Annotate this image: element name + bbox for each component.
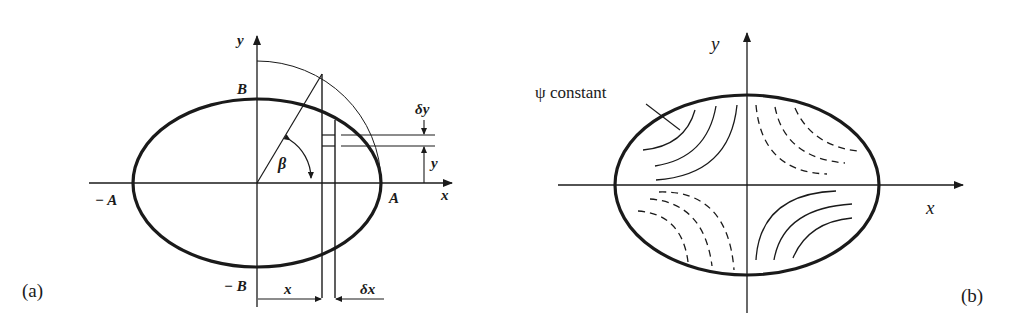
caption-b: (b) <box>961 285 983 307</box>
x-axis-label-b: x <box>925 197 935 218</box>
psi-contours-dashed-upper-right <box>756 105 858 174</box>
y-axis-label-b: y <box>709 33 720 54</box>
psi-contours-solid-upper-left <box>643 105 737 180</box>
label-A: A <box>388 190 399 206</box>
panel-b: ψ constant y x (b) <box>535 33 983 313</box>
x-dimension-label: x <box>283 281 292 297</box>
beta-label: β <box>277 155 287 173</box>
figure-canvas: β δy y x δx y x B − B A − A (a) <box>0 0 1013 333</box>
y-dimension-label: y <box>429 155 438 171</box>
label-B: B <box>236 81 247 97</box>
caption-a: (a) <box>22 280 43 302</box>
beta-angle-arc <box>290 140 311 178</box>
delta-x-label: δx <box>360 281 376 297</box>
panel-a: β δy y x δx y x B − B A − A (a) <box>22 32 452 307</box>
radius-line <box>257 74 322 183</box>
label-neg-B: − B <box>224 278 247 294</box>
label-neg-A: − A <box>95 192 117 208</box>
y-axis-label-a: y <box>235 32 244 48</box>
psi-contours-dashed-lower-left <box>638 192 734 270</box>
psi-constant-label: ψ constant <box>535 83 607 102</box>
delta-y-label: δy <box>415 101 430 117</box>
x-axis-label-a: x <box>440 187 449 203</box>
